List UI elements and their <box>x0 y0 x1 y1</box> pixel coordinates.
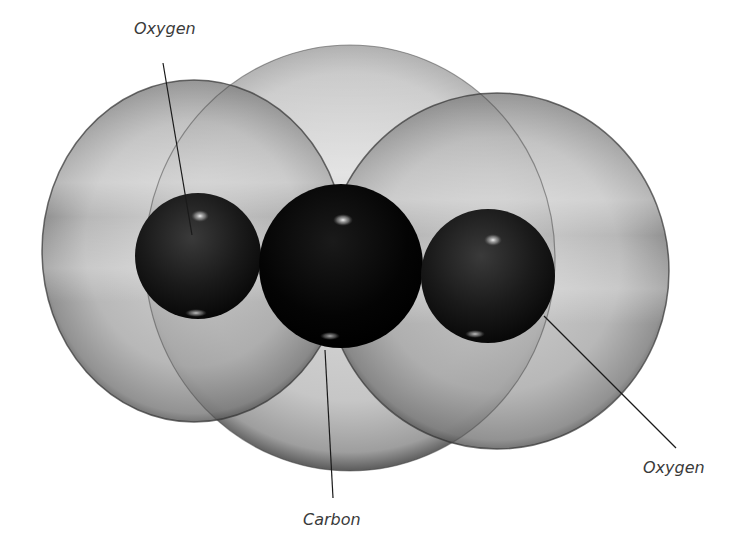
oxygen-right-nucleus <box>421 209 555 343</box>
oxygen-left-nucleus <box>135 193 261 319</box>
label-carbon: Carbon <box>303 512 361 528</box>
carbon-nucleus <box>259 184 423 348</box>
molecule-illustration <box>0 0 752 541</box>
co2-molecule-diagram: Carbon dioxide molecule (space-filling m… <box>0 0 752 541</box>
label-oxygen-left: Oxygen <box>134 21 196 37</box>
label-oxygen-right: Oxygen <box>643 460 705 476</box>
